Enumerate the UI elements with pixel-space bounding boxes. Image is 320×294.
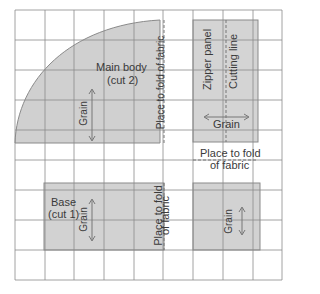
zipper-panel-title: Zipper panel <box>202 25 213 95</box>
base-title: Base <box>51 197 76 208</box>
base-fold-label-2: of fabric <box>160 191 171 241</box>
main-body-title: Main body <box>96 62 147 73</box>
main-body-grain-label: Grain <box>78 99 89 129</box>
zipper-fold-label-1: Place to fold <box>200 148 261 159</box>
base-subtitle: (cut 1) <box>48 209 79 220</box>
main-body-subtitle: (cut 2) <box>107 75 138 86</box>
zipper-panel-grain-label: Grain <box>213 119 240 130</box>
main-body-fold-label: Place to fold of fabric <box>155 23 166 143</box>
base-grain-label: Grain <box>78 205 89 235</box>
zipper-fold-label-2: of fabric <box>210 160 249 171</box>
cutting-line-label: Cutting line <box>228 27 239 97</box>
small-panel-grain-label: Grain <box>223 207 234 237</box>
